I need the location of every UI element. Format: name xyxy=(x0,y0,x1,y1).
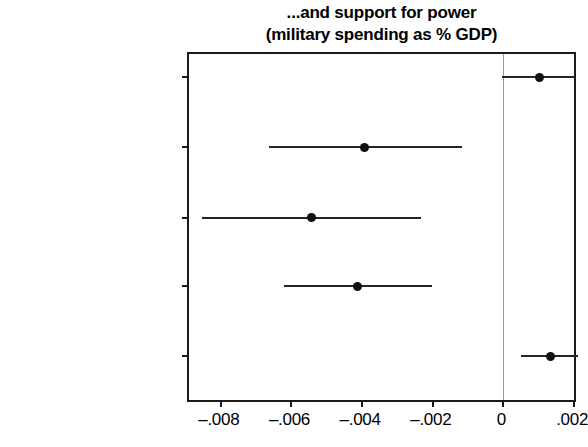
x-axis-tick xyxy=(573,400,575,407)
y-axis-tick xyxy=(182,217,189,219)
x-axis-tick xyxy=(220,400,222,407)
x-axis-tick xyxy=(432,400,434,407)
y-axis-tick xyxy=(182,285,189,287)
x-axis-tick-label: –.002 xyxy=(410,410,451,430)
y-axis-tick xyxy=(182,76,189,78)
chart-title: ...and support for power (military spend… xyxy=(187,2,576,46)
x-axis-tick-label: 0 xyxy=(497,410,506,430)
plot-area xyxy=(187,52,576,402)
chart-title-line-1: ...and support for power xyxy=(187,2,576,24)
point-estimate-marker xyxy=(546,352,555,361)
point-estimate-marker xyxy=(360,143,369,152)
y-axis-tick xyxy=(182,355,189,357)
x-axis-tick-label: –.004 xyxy=(340,410,381,430)
point-estimate-marker xyxy=(353,282,362,291)
x-axis-tick-label: .002 xyxy=(556,410,588,430)
x-axis-tick-label: –.008 xyxy=(198,410,239,430)
point-estimate-marker xyxy=(307,213,316,222)
zero-reference-line xyxy=(503,54,504,400)
x-axis-tick xyxy=(502,400,504,407)
x-axis-tick-label: –.006 xyxy=(269,410,310,430)
y-axis-tick xyxy=(182,146,189,148)
point-estimate-marker xyxy=(535,73,544,82)
chart-title-line-2: (military spending as % GDP) xyxy=(187,24,576,46)
x-axis-tick xyxy=(290,400,292,407)
x-axis-tick xyxy=(361,400,363,407)
